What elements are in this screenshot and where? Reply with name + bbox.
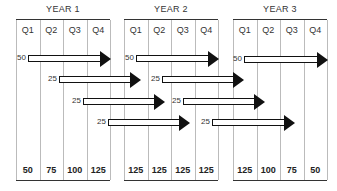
quarter-label: Q4 xyxy=(304,25,328,35)
arrow-shaft xyxy=(83,98,155,105)
quarter-label: Q2 xyxy=(40,25,64,35)
arrow-value-label: 25 xyxy=(48,74,57,83)
rollout-arrow xyxy=(212,115,295,130)
rollout-arrow xyxy=(162,72,244,87)
quarter-total: 125 xyxy=(148,165,172,175)
quarter-label: Q4 xyxy=(87,25,111,35)
gridline xyxy=(304,20,305,180)
quarter-label: Q3 xyxy=(63,25,87,35)
arrow-head-icon xyxy=(254,94,265,110)
rollout-arrow xyxy=(244,52,328,67)
arrow-shaft xyxy=(212,119,285,126)
arrow-value-label: 25 xyxy=(151,74,160,83)
arrow-value-label: 25 xyxy=(72,96,81,105)
quarter-total: 125 xyxy=(233,165,257,175)
gridline xyxy=(63,20,64,180)
arrow-head-icon xyxy=(284,115,295,131)
arrow-shaft xyxy=(28,55,101,62)
rollout-arrow xyxy=(108,115,190,130)
gridline xyxy=(40,20,41,180)
year-2-title: YEAR 2 xyxy=(124,4,218,14)
rollout-arrow xyxy=(59,72,141,87)
quarter-label: Q2 xyxy=(257,25,281,35)
arrow-shaft xyxy=(183,98,255,105)
year-3-bottom-rule xyxy=(233,180,327,181)
year-1-bottom-rule xyxy=(16,180,110,181)
quarter-total: 125 xyxy=(124,165,148,175)
arrow-shaft xyxy=(136,55,209,62)
gridline xyxy=(327,20,328,180)
arrow-shaft xyxy=(162,76,234,83)
quarter-label: Q2 xyxy=(148,25,172,35)
quarter-total: 125 xyxy=(195,165,219,175)
arrow-head-icon xyxy=(130,72,141,88)
arrow-value-label: 25 xyxy=(201,117,210,126)
quarter-total: 100 xyxy=(257,165,281,175)
year-1-title: YEAR 1 xyxy=(16,4,110,14)
arrow-head-icon xyxy=(233,72,244,88)
rollout-arrow xyxy=(83,94,165,109)
arrow-value-label: 50 xyxy=(17,53,26,62)
arrow-head-icon xyxy=(317,52,328,68)
arrow-head-icon xyxy=(179,115,190,131)
arrow-head-icon xyxy=(154,94,165,110)
arrow-shaft xyxy=(244,56,318,63)
quarter-total: 125 xyxy=(171,165,195,175)
quarter-label: Q4 xyxy=(195,25,219,35)
arrow-shaft xyxy=(108,119,180,126)
arrow-head-icon xyxy=(100,51,111,67)
rollout-arrow xyxy=(136,51,219,66)
quarter-label: Q1 xyxy=(124,25,148,35)
rollout-arrow xyxy=(183,94,265,109)
quarter-total: 125 xyxy=(87,165,111,175)
year-2-bottom-rule xyxy=(124,180,218,181)
rollout-arrow xyxy=(28,51,111,66)
arrow-shaft xyxy=(59,76,131,83)
quarter-label: Q1 xyxy=(16,25,40,35)
quarter-label: Q3 xyxy=(280,25,304,35)
arrow-value-label: 50 xyxy=(125,53,134,62)
arrow-value-label: 25 xyxy=(97,117,106,126)
quarter-total: 50 xyxy=(16,165,40,175)
quarter-total: 75 xyxy=(40,165,64,175)
gridline xyxy=(280,20,281,180)
gridline xyxy=(16,20,17,180)
arrow-value-label: 25 xyxy=(172,96,181,105)
quarter-total: 75 xyxy=(280,165,304,175)
year-3-title: YEAR 3 xyxy=(233,4,327,14)
quarter-total: 50 xyxy=(304,165,328,175)
arrow-value-label: 50 xyxy=(233,54,242,63)
quarter-total: 100 xyxy=(63,165,87,175)
quarter-label: Q1 xyxy=(233,25,257,35)
arrow-head-icon xyxy=(208,51,219,67)
quarter-label: Q3 xyxy=(171,25,195,35)
